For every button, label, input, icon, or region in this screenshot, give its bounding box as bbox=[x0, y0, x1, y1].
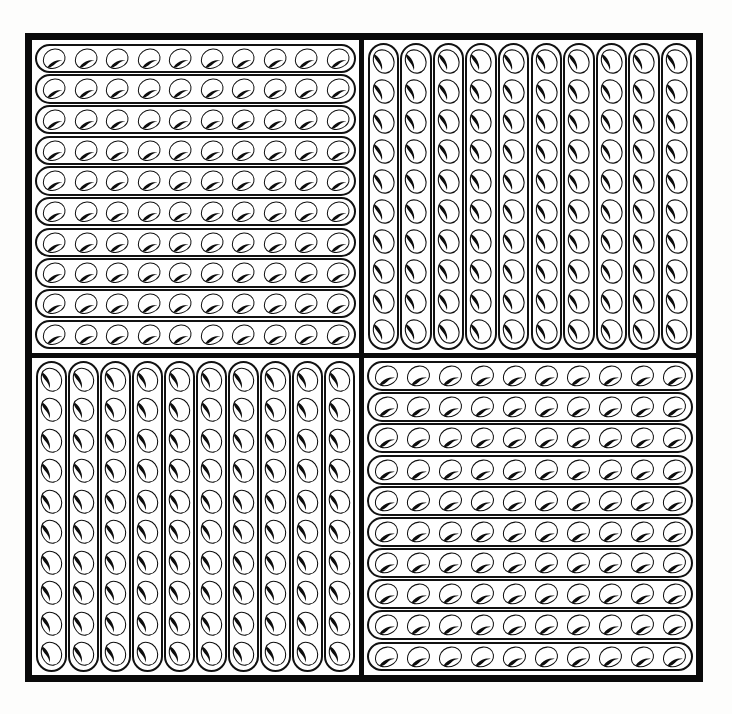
bean-icon bbox=[134, 547, 161, 578]
bean-icon bbox=[230, 455, 257, 486]
bean-icon bbox=[230, 547, 257, 578]
bean-icon bbox=[70, 394, 97, 425]
bean-icon bbox=[101, 230, 133, 255]
bean-icon bbox=[598, 286, 625, 316]
bean-icon bbox=[70, 199, 102, 224]
bean-icon bbox=[533, 286, 560, 316]
bean-column bbox=[260, 361, 291, 673]
bean-icon bbox=[402, 644, 434, 670]
bean-icon bbox=[630, 106, 657, 136]
bean-icon bbox=[198, 516, 225, 547]
bean-icon bbox=[626, 457, 658, 483]
bean-icon bbox=[262, 638, 289, 669]
bean-icon bbox=[326, 608, 353, 639]
bean-icon bbox=[164, 199, 196, 224]
bean-icon bbox=[434, 550, 466, 576]
bean-row bbox=[35, 320, 356, 349]
bean-row bbox=[367, 392, 693, 422]
bean-icon bbox=[658, 394, 690, 420]
bean-column bbox=[563, 43, 594, 350]
bean-icon bbox=[322, 199, 354, 224]
bean-icon bbox=[565, 46, 592, 76]
bean-icon bbox=[626, 644, 658, 670]
bean-icon bbox=[196, 46, 228, 71]
bean-icon bbox=[133, 199, 165, 224]
bean-row bbox=[367, 517, 693, 547]
bean-icon bbox=[498, 363, 530, 389]
bean-icon bbox=[164, 260, 196, 285]
bean-icon bbox=[102, 577, 129, 608]
bean-icon bbox=[533, 226, 560, 256]
bean-icon bbox=[198, 577, 225, 608]
bean-icon bbox=[533, 136, 560, 166]
bean-icon bbox=[402, 316, 429, 346]
bean-icon bbox=[133, 291, 165, 316]
bean-icon bbox=[134, 425, 161, 456]
bean-icon bbox=[262, 547, 289, 578]
bean-icon bbox=[562, 394, 594, 420]
bean-column bbox=[596, 43, 627, 350]
bean-icon bbox=[370, 46, 397, 76]
bean-icon bbox=[467, 76, 494, 106]
bean-icon bbox=[259, 230, 291, 255]
bean-icon bbox=[326, 364, 353, 395]
bean-icon bbox=[102, 455, 129, 486]
bean-icon bbox=[38, 394, 65, 425]
bean-icon bbox=[434, 488, 466, 514]
bean-icon bbox=[658, 581, 690, 607]
bean-icon bbox=[370, 316, 397, 346]
bean-icon bbox=[434, 644, 466, 670]
bean-icon bbox=[230, 577, 257, 608]
bean-icon bbox=[166, 364, 193, 395]
bean-icon bbox=[101, 291, 133, 316]
bean-icon bbox=[230, 638, 257, 669]
bean-icon bbox=[166, 516, 193, 547]
bean-icon bbox=[402, 519, 434, 545]
bean-icon bbox=[198, 364, 225, 395]
bean-icon bbox=[38, 291, 70, 316]
bean-icon bbox=[402, 488, 434, 514]
bean-icon bbox=[562, 550, 594, 576]
bean-icon bbox=[227, 138, 259, 163]
bean-icon bbox=[227, 260, 259, 285]
bean-icon bbox=[594, 581, 626, 607]
bean-icon bbox=[227, 107, 259, 132]
bean-icon bbox=[402, 196, 429, 226]
bean-icon bbox=[196, 291, 228, 316]
bean-icon bbox=[290, 46, 322, 71]
bean-icon bbox=[594, 519, 626, 545]
bean-icon bbox=[370, 76, 397, 106]
bean-icon bbox=[227, 322, 259, 347]
bean-icon bbox=[322, 107, 354, 132]
bean-icon bbox=[198, 547, 225, 578]
bean-icon bbox=[467, 256, 494, 286]
bean-icon bbox=[166, 547, 193, 578]
bean-icon bbox=[498, 581, 530, 607]
bean-icon bbox=[594, 488, 626, 514]
bean-icon bbox=[166, 425, 193, 456]
bean-icon bbox=[326, 577, 353, 608]
bean-icon bbox=[630, 226, 657, 256]
bean-row bbox=[35, 136, 356, 165]
bean-icon bbox=[498, 550, 530, 576]
bean-icon bbox=[38, 107, 70, 132]
bean-icon bbox=[562, 363, 594, 389]
bean-icon bbox=[466, 550, 498, 576]
bean-icon bbox=[402, 286, 429, 316]
bean-icon bbox=[594, 394, 626, 420]
bean-icon bbox=[434, 612, 466, 638]
bean-icon bbox=[38, 577, 65, 608]
bean-icon bbox=[294, 455, 321, 486]
bean-icon bbox=[294, 364, 321, 395]
bean-icon bbox=[227, 46, 259, 71]
bean-icon bbox=[663, 136, 690, 166]
quadrant-bottom-left bbox=[32, 358, 364, 676]
bean-icon bbox=[164, 322, 196, 347]
bean-icon bbox=[598, 46, 625, 76]
bean-icon bbox=[434, 394, 466, 420]
bean-icon bbox=[498, 425, 530, 451]
bean-icon bbox=[70, 516, 97, 547]
bean-icon bbox=[402, 46, 429, 76]
outer-frame bbox=[25, 33, 703, 682]
bean-column bbox=[196, 361, 227, 673]
